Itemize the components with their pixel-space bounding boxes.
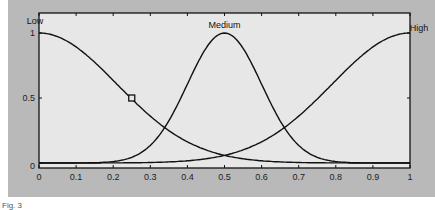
label-medium: Medium [208,20,240,30]
square-marker [129,95,135,101]
x-tick-label: 0.8 [330,172,343,182]
x-tick-label: 0.1 [70,172,83,182]
y-tick-label: 0.5 [22,93,35,103]
label-high: High [410,23,429,33]
x-tick-label: 0 [36,172,41,182]
x-tick-label: 0.5 [218,172,231,182]
x-tick-label: 0.4 [181,172,194,182]
x-tick-label: 0.6 [255,172,268,182]
y-tick-label: 0 [30,161,35,171]
x-tick-label: 0.2 [107,172,120,182]
label-low: Low [27,16,44,26]
x-tick-label: 0.7 [292,172,305,182]
x-tick-label: 0.3 [144,172,157,182]
membership-function-chart: 00.10.20.30.40.50.60.70.80.9100.51 LowMe… [0,0,435,200]
x-tick-label: 0.9 [367,172,380,182]
markers [129,95,135,101]
x-tick-label: 1 [407,172,412,182]
plot-area [39,13,410,168]
figure-caption: Fig. 3 [2,201,22,210]
y-tick-label: 1 [30,28,35,38]
